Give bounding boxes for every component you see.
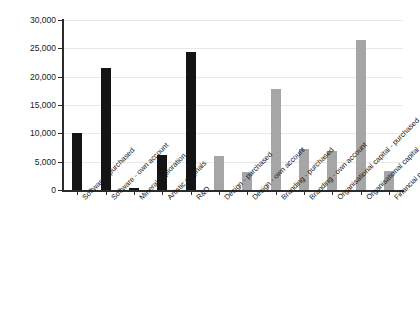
x-axis-category-label: Software - own account [110, 196, 115, 201]
x-axis-category-label: Design - purchased [223, 196, 228, 201]
y-axis-tick-mark [58, 20, 62, 21]
x-axis-category-label: Artistic originals [166, 196, 171, 201]
x-axis-tick-mark [162, 191, 163, 195]
x-axis-tick-mark [134, 191, 135, 195]
y-axis-tick-mark [58, 48, 62, 49]
x-axis-category-label: Financial product innovation [393, 196, 398, 201]
y-axis-tick-mark [58, 77, 62, 78]
x-axis-tick-mark [361, 191, 362, 195]
x-axis-tick-mark [77, 191, 78, 195]
x-axis-category-label: Design - own account [251, 196, 256, 201]
x-axis-category-label: Organisational capital - own account [365, 196, 370, 201]
x-axis-tick-mark [304, 191, 305, 195]
x-axis-tick-mark [247, 191, 248, 195]
y-axis-tick-mark [58, 105, 62, 106]
bar-chart-figure: 05,00010,00015,00020,00025,00030,000 Sof… [0, 0, 420, 318]
x-axis-tick-mark [389, 191, 390, 195]
x-axis-category-label: Software - purchased [81, 196, 86, 201]
x-axis-category-label: Mineral exploration [138, 196, 143, 201]
x-axis-category-label: Branding - own account [308, 196, 313, 201]
x-axis-category-label: Organisational capital - purchased [336, 196, 341, 201]
y-axis-tick-mark [58, 190, 62, 191]
y-axis-tick-mark [58, 162, 62, 163]
x-axis-tick-mark [219, 191, 220, 195]
x-axis-tick-mark [276, 191, 277, 195]
y-axis-tick-mark [58, 133, 62, 134]
x-axis-tick-mark [332, 191, 333, 195]
x-axis-category-label: R&D [195, 196, 200, 201]
x-axis-category-label: Branding - purchased [280, 196, 285, 201]
x-axis-category-labels: Software - purchasedSoftware - own accou… [0, 0, 420, 318]
x-axis-tick-mark [106, 191, 107, 195]
x-axis-tick-mark [191, 191, 192, 195]
